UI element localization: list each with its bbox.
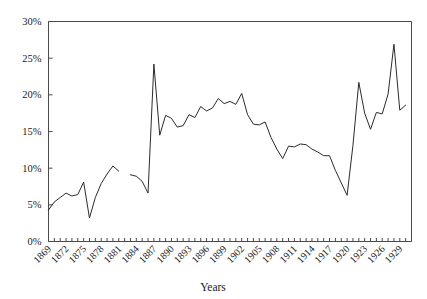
x-tick-label: 1896 [189, 243, 211, 265]
data-series-line [130, 44, 405, 195]
y-tick-label: 15% [22, 126, 42, 137]
y-tick-label: 30% [22, 16, 42, 27]
x-tick-label: 1914 [295, 243, 317, 265]
data-series-group [49, 44, 406, 218]
x-tick-label: 1917 [312, 243, 334, 265]
y-tick-label: 0% [28, 236, 42, 247]
x-tick-label: 1908 [260, 243, 282, 265]
data-series-line [49, 166, 119, 218]
y-tick-label: 25% [22, 53, 42, 64]
x-tick-label: 1875 [66, 243, 88, 265]
x-tick-label: 1923 [347, 243, 369, 265]
y-tick-label: 10% [22, 163, 42, 174]
x-axis-tick-marks [49, 238, 412, 242]
y-tick-label: 5% [28, 199, 42, 210]
x-tick-label: 1929 [382, 243, 404, 265]
x-tick-label: 1899 [207, 243, 229, 265]
plot-frame [49, 22, 412, 242]
x-tick-label: 1872 [49, 243, 71, 265]
y-tick-label: 20% [22, 89, 42, 100]
x-tick-label: 1887 [137, 243, 159, 265]
x-tick-label: 1920 [330, 243, 352, 265]
x-tick-label: 1884 [119, 243, 141, 265]
y-axis-tick-labels: 0%5%10%15%20%25%30% [22, 16, 42, 247]
x-axis-tick-labels: 1869187218751878188118841887189018931896… [31, 243, 404, 265]
x-tick-label: 1881 [101, 243, 123, 265]
x-tick-label: 1905 [242, 243, 264, 265]
x-tick-label: 1893 [172, 243, 194, 265]
x-tick-label: 1911 [277, 243, 299, 265]
chart-container: 0%5%10%15%20%25%30% 18691872187518781881… [0, 0, 427, 299]
x-tick-label: 1926 [365, 243, 387, 265]
x-tick-label: 1878 [84, 243, 106, 265]
x-tick-label: 1890 [154, 243, 176, 265]
line-chart: 0%5%10%15%20%25%30% 18691872187518781881… [0, 0, 427, 299]
plot-frame-border [49, 22, 412, 242]
x-tick-label: 1902 [224, 243, 246, 265]
x-axis-title: Years [200, 281, 226, 293]
